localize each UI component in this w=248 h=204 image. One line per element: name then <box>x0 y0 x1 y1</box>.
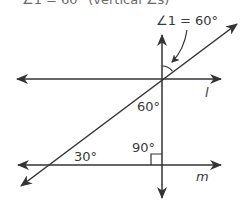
diagram-canvas <box>0 0 248 204</box>
angle-1-arc <box>162 66 172 71</box>
angle-90-label: 90° <box>132 141 155 154</box>
diagonal-transversal <box>21 24 237 186</box>
line-m-label: m <box>196 170 209 183</box>
parallel-lines-diagram: ∠1 = 60° (vertical ∠s) ∠1 = 60° 60° 90° … <box>0 0 248 204</box>
right-angle-marker <box>151 154 162 165</box>
angle-30-label: 30° <box>74 150 97 163</box>
line-l-label: l <box>205 86 209 99</box>
angle-1-pointer <box>172 30 187 62</box>
angle-1-label: ∠1 = 60° <box>156 14 218 27</box>
angle-60-label: 60° <box>137 100 160 113</box>
